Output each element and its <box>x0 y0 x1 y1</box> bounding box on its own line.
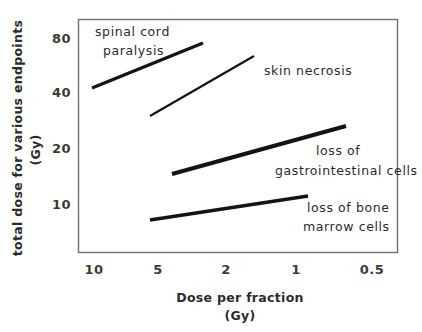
y-tick-label-40: 40 <box>52 85 71 100</box>
y-tick-label-10: 10 <box>52 197 71 212</box>
x-tick-label-5: 5 <box>153 262 163 277</box>
x-tick-label-0point5: 0.5 <box>360 262 385 277</box>
annotation-gi-line2: gastrointestinal cells <box>275 163 418 178</box>
x-tick-label-1: 1 <box>291 262 301 277</box>
annotation-spinal-cord-line1: spinal cord <box>95 24 170 39</box>
x-axis-title: Dose per fraction <box>176 290 303 305</box>
y-axis-units: (Gy) <box>28 134 43 165</box>
annotation-skin-necrosis: skin necrosis <box>264 63 352 78</box>
y-axis-title: total dose for various endpoints <box>10 20 25 256</box>
x-axis-units: (Gy) <box>224 308 255 323</box>
curve-loss-of-bone-marrow-cells <box>150 196 308 220</box>
x-tick-label-2: 2 <box>221 262 231 277</box>
annotation-gi-line1: loss of <box>316 143 360 158</box>
annotation-bone-line1: loss of bone <box>307 200 390 215</box>
y-tick-label-80: 80 <box>52 31 71 46</box>
curve-skin-necrosis <box>150 56 254 116</box>
x-tick-label-10: 10 <box>84 262 103 277</box>
annotation-bone-line2: marrow cells <box>303 219 390 234</box>
annotation-spinal-cord-line2: paralysis <box>103 43 164 58</box>
chart-svg: 80 40 20 10 10 5 2 1 0.5 Dose per fracti… <box>0 0 422 332</box>
chart-figure: 80 40 20 10 10 5 2 1 0.5 Dose per fracti… <box>0 0 422 332</box>
y-tick-label-20: 20 <box>52 141 71 156</box>
